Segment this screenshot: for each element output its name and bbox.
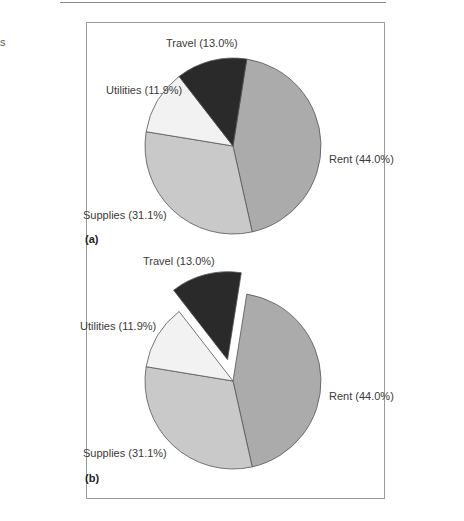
label-utilities-b: Utilities (11.9%)	[80, 320, 156, 332]
label-rent-a: Rent (44.0%)	[329, 153, 394, 165]
label-utilities-a: Utilities (11.9%)	[106, 84, 182, 96]
label-travel-a: Travel (13.0%)	[166, 37, 238, 49]
label-supplies-b: Supplies (31.1%)	[83, 447, 167, 459]
panel-label-a: (a)	[85, 233, 99, 245]
panel-label-b: (b)	[85, 472, 99, 484]
label-travel-b: Travel (13.0%)	[143, 255, 215, 267]
label-rent-b: Rent (44.0%)	[329, 390, 394, 402]
pie-charts: Travel (13.0%) Utilities (11.9%) Rent (4…	[0, 0, 464, 521]
pie-chart-b	[145, 272, 321, 469]
label-supplies-a: Supplies (31.1%)	[83, 209, 167, 221]
